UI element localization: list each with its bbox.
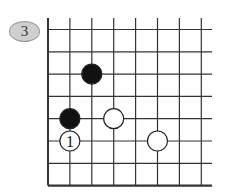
white-stone <box>104 109 124 129</box>
board-grid <box>48 18 212 186</box>
black-stone <box>82 64 102 84</box>
go-board: 1 <box>0 0 232 192</box>
white-stone-1: 1 <box>60 131 80 151</box>
move-number: 1 <box>66 133 74 150</box>
white-stone <box>148 131 168 151</box>
black-stone <box>60 109 80 129</box>
